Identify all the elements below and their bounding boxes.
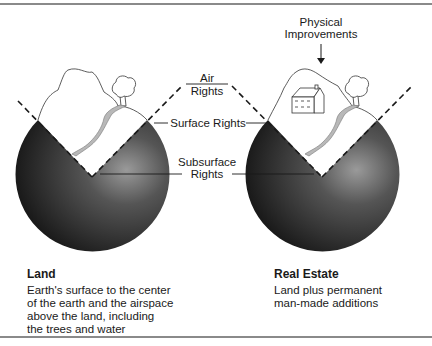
physical-improvements-label: Physical Improvements <box>281 16 361 40</box>
subsurface-rights-line1: Subsurface <box>178 156 236 168</box>
real-estate-description-line: man-made additions <box>274 297 382 310</box>
real-estate-description-line: Land plus permanent <box>274 284 382 297</box>
physical-improvements-line2: Improvements <box>281 28 361 40</box>
physical-improvements-line1: Physical <box>281 16 361 28</box>
air-rights-label: Air Rights <box>187 72 227 97</box>
subsurface-rights-label: Subsurface Rights <box>178 156 236 180</box>
land-caption: Land Earth's surface to the center of th… <box>27 268 173 336</box>
land-description-line: Earth's surface to the center <box>27 284 173 297</box>
land-description-line: the trees and water <box>27 323 173 336</box>
subsurface-rights-line2: Rights <box>178 168 236 180</box>
air-rights-line1: Air <box>187 72 227 84</box>
physical-improvements-arrow <box>317 44 325 64</box>
real-estate-caption: Real Estate Land plus permanent man-made… <box>274 268 382 310</box>
air-rights-line2: Rights <box>187 85 227 97</box>
real-estate-sphere <box>246 120 400 251</box>
real-estate-title: Real Estate <box>274 268 382 281</box>
land-description-line: above the land, including <box>27 310 173 323</box>
surface-rights-label: Surface Rights <box>170 117 246 129</box>
land-title: Land <box>27 268 173 281</box>
land-description-line: of the earth and the airspace <box>27 297 173 310</box>
